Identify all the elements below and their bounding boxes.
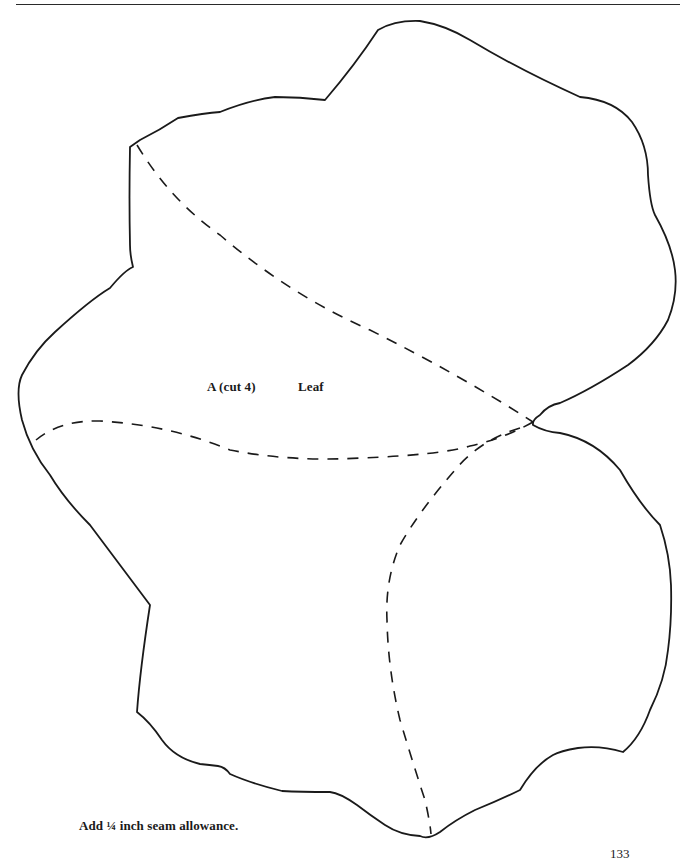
stitch-line-upper [137,145,533,422]
piece-name: Leaf [298,379,324,395]
leaf-pattern-drawing [0,0,699,866]
stitch-line-middle [36,421,533,459]
piece-label: A (cut 4) [207,379,256,395]
leaf-outline [19,21,676,837]
seam-allowance-note: Add ¼ inch seam allowance. [79,818,238,834]
stitch-line-lower [387,428,520,834]
pattern-page: A (cut 4) Leaf Add ¼ inch seam allowance… [0,0,699,866]
page-number: 133 [610,846,630,862]
